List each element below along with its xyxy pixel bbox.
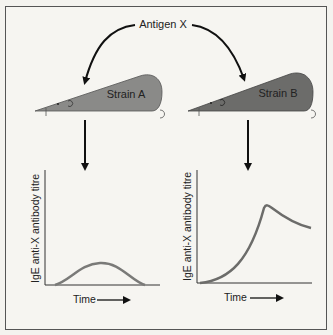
mouse-strain-a: Strain A: [35, 75, 165, 118]
strain-a-response-curve: [55, 263, 145, 285]
y-axis-label-a: IgE anti-X antibody titre: [29, 174, 41, 283]
immune-response-diagram: Antigen X Strain A Strain B IgE anti-X a…: [0, 0, 333, 335]
arrow-to-strain-a-icon: [85, 25, 135, 82]
strain-b-label: Strain B: [258, 87, 297, 99]
arrow-to-strain-b-icon: [192, 25, 244, 79]
chart-strain-b: IgE anti-X antibody titre Time: [181, 170, 312, 303]
y-axis-label-b: IgE anti-X antibody titre: [181, 172, 193, 281]
x-axis-label-b: Time: [224, 291, 247, 303]
antigen-label: Antigen X: [139, 18, 187, 30]
strain-a-label: Strain A: [107, 88, 146, 100]
strain-b-response-curve: [200, 205, 311, 283]
chart-strain-a: IgE anti-X antibody titre Time: [29, 170, 160, 305]
mouse-strain-b: Strain B: [188, 73, 316, 118]
x-axis-label-a: Time: [73, 293, 96, 305]
